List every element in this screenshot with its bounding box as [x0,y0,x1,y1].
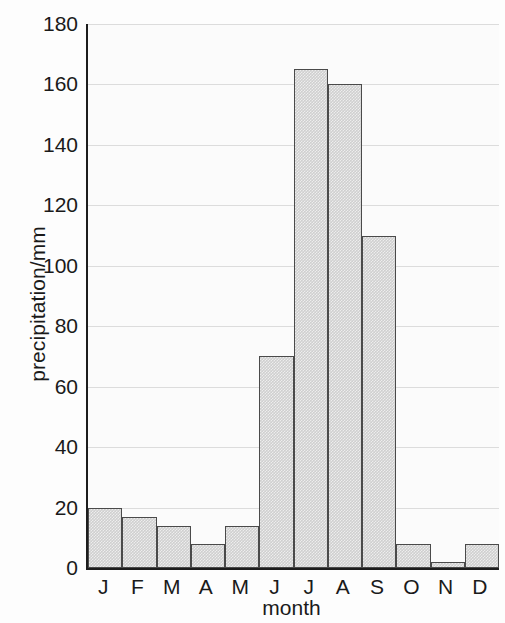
plot-area [86,24,499,570]
y-axis-tick-label: 40 [2,435,78,459]
y-axis-tick-label: 160 [2,72,78,96]
y-axis-tick-label: 100 [2,254,78,278]
y-axis-tick-label: 60 [2,375,78,399]
bar-j-5 [259,356,293,568]
bar-j-6 [294,69,328,568]
y-axis-tick-label: 80 [2,314,78,338]
bar-j-0 [88,508,122,568]
gridline [88,24,499,25]
y-axis-tick-label: 180 [2,12,78,36]
x-axis-title: month [86,596,497,620]
bar-n-10 [431,562,465,568]
bar-a-7 [328,84,362,568]
precipitation-bar-chart: precipitation/mm 02040608010012014016018… [0,0,505,623]
bar-d-11 [465,544,499,568]
bar-m-4 [225,526,259,568]
y-axis-tick-label: 0 [2,556,78,580]
bar-s-8 [362,236,396,568]
bar-a-3 [191,544,225,568]
y-axis-tick-label: 120 [2,193,78,217]
y-axis-tick-label: 20 [2,496,78,520]
bar-f-1 [122,517,156,568]
bar-o-9 [396,544,430,568]
bar-m-2 [157,526,191,568]
y-axis-tick-label: 140 [2,133,78,157]
